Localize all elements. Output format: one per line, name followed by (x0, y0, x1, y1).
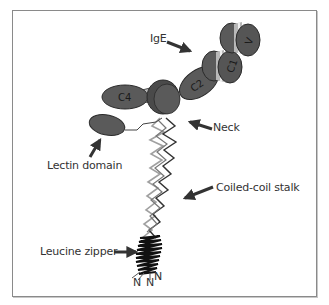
n-terminus-3: N (154, 270, 162, 283)
label-lectin-domain: Lectin domain (47, 159, 122, 172)
n-terminus-1: N (133, 276, 141, 289)
label-ige: IgE (150, 32, 167, 45)
cd23-ige-diagram: C4 C2 C1 V (0, 0, 329, 305)
label-neck: Neck (213, 121, 240, 134)
svg-text:C4: C4 (118, 92, 131, 103)
label-leucine-zipper: Leucine zipper (40, 245, 117, 258)
n-terminus-2: N (146, 276, 154, 289)
stalk-arrow (185, 187, 213, 198)
leucine-zipper (136, 236, 162, 274)
lectin-arrow (90, 140, 100, 157)
ce3-domain (147, 80, 180, 114)
vh-domain: V (220, 22, 260, 56)
ige-arrow (167, 42, 190, 51)
label-coiled-coil-stalk: Coiled-coil stalk (216, 181, 299, 194)
ce1-domain: C1 (202, 50, 242, 83)
lectin-domain (87, 111, 126, 138)
neck-arrow (190, 122, 212, 129)
coiled-coil-stalk (142, 118, 176, 238)
